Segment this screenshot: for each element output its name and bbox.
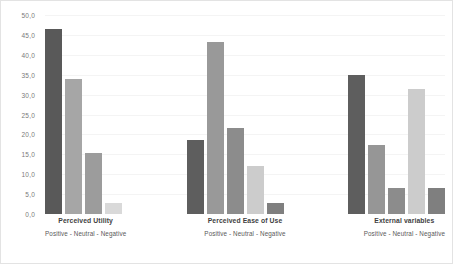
- group-labels: Perceived UtilityPositive - Neutral - Ne…: [45, 217, 445, 257]
- bar[interactable]: [388, 188, 405, 214]
- y-axis-tick-label: 10,0: [22, 171, 35, 178]
- bar[interactable]: [227, 128, 244, 214]
- bar[interactable]: [45, 29, 62, 214]
- bar[interactable]: [247, 166, 264, 214]
- bar[interactable]: [368, 145, 385, 214]
- bar[interactable]: [105, 203, 122, 214]
- y-axis: 0,05,010,015,020,025,030,035,040,045,050…: [1, 15, 41, 214]
- bar[interactable]: [348, 75, 365, 214]
- bar-groups: [45, 15, 445, 214]
- y-axis-tick-label: 20,0: [22, 131, 35, 138]
- bar[interactable]: [187, 140, 204, 214]
- group-legend: Positive - Neutral - Negative: [364, 230, 445, 237]
- y-axis-tick-label: 0,0: [25, 211, 35, 218]
- y-axis-tick-label: 5,0: [25, 191, 35, 198]
- y-axis-tick-label: 30,0: [22, 91, 35, 98]
- group-label-block: Perceived Ease of UsePositive - Neutral …: [204, 217, 285, 257]
- y-axis-tick-label: 15,0: [22, 151, 35, 158]
- y-axis-tick-label: 40,0: [22, 51, 35, 58]
- y-axis-tick-label: 50,0: [22, 12, 35, 19]
- bar[interactable]: [408, 89, 425, 214]
- group-title: Perceived Ease of Use: [204, 217, 285, 224]
- bar-group: [348, 15, 445, 214]
- y-axis-tick-label: 25,0: [22, 111, 35, 118]
- bar[interactable]: [65, 79, 82, 214]
- group-label-block: Perceived UtilityPositive - Neutral - Ne…: [45, 217, 126, 257]
- bar[interactable]: [267, 203, 284, 214]
- bar-group: [45, 15, 122, 214]
- y-axis-tick-label: 35,0: [22, 71, 35, 78]
- group-legend: Positive - Neutral - Negative: [204, 230, 285, 237]
- group-label-block: External variablesPositive - Neutral - N…: [364, 217, 445, 257]
- group-title: External variables: [364, 217, 445, 224]
- bar-chart: 0,05,010,015,020,025,030,035,040,045,050…: [0, 0, 453, 264]
- bar[interactable]: [428, 188, 445, 214]
- bar[interactable]: [85, 153, 102, 214]
- bar-group: [187, 15, 284, 214]
- group-title: Perceived Utility: [45, 217, 126, 224]
- y-axis-tick-label: 45,0: [22, 31, 35, 38]
- bar[interactable]: [207, 42, 224, 214]
- group-legend: Positive - Neutral - Negative: [45, 230, 126, 237]
